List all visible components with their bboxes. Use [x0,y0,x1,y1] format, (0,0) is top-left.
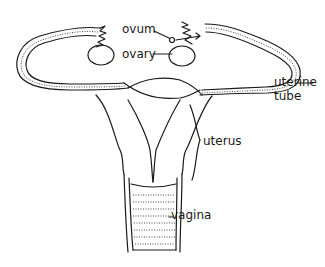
left-uterine-tube [17,26,128,90]
reproductive-system-diagram: ovum ovary uterine tube uterus vagina [0,0,325,267]
label-uterine-tube-2: tube [274,89,301,103]
label-ovum: ovum [122,22,156,36]
ovum [170,38,175,43]
label-uterus: uterus [203,134,241,148]
ovum-leader [154,31,169,38]
right-ovary [169,46,195,66]
left-ovary [88,45,114,65]
label-uterine-tube-1: uterine [274,75,317,89]
label-ovary: ovary [122,47,156,61]
label-vagina: vagina [171,208,211,222]
uterus-bracket [190,105,200,180]
